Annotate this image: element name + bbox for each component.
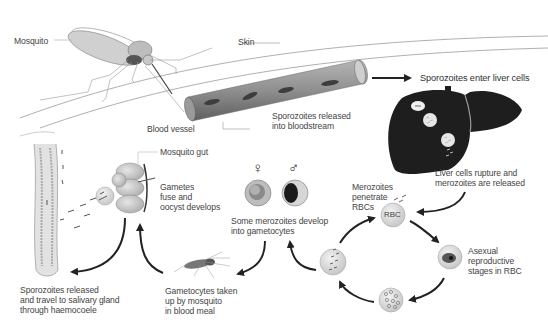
label-mosquito-gut: Mosquito gut: [160, 147, 208, 157]
salivary-gland-icon: [20, 132, 96, 276]
female-symbol-icon: ♀: [252, 160, 263, 176]
mosquito-gut-icon: [96, 152, 158, 213]
label-gametocytes-develop: Some merozoites develop into gametocytes: [231, 216, 328, 236]
label-skin: Skin: [238, 37, 254, 47]
label-merozoites-penetrate: Merozoites penetrate RBCs: [352, 182, 393, 212]
label-sporozoites-enter-liver: Sporozoites enter liver cells: [420, 73, 529, 84]
label-sporozoites-bloodstream: Sporozoites released into bloodstream: [272, 111, 351, 131]
male-symbol-icon: ♂: [288, 160, 299, 176]
label-gametes-fuse: Gametes fuse and oocyst develops: [160, 182, 220, 212]
arrow-gametocytes-to-mosquito: [238, 241, 265, 274]
label-sporozoites-salivary: Sporozoites released and travel to saliv…: [20, 285, 119, 315]
gametocytes: [245, 180, 308, 206]
label-mosquito: Mosquito: [14, 36, 48, 46]
label-asexual-stages: Asexual reproductive stages in RBC: [468, 246, 522, 276]
small-mosquito-icon: [174, 252, 230, 278]
label-rbc: RBC: [384, 210, 401, 220]
liver-icon: [388, 86, 522, 174]
arrow-mosquito-to-gut: [140, 225, 163, 273]
malaria-lifecycle-diagram: Mosquito Skin Blood vessel Sporozoites r…: [0, 0, 548, 326]
ruptured-rbc-cell: [320, 249, 346, 275]
diagram-artwork: [0, 0, 548, 326]
arrow-to-gametocytes: [290, 242, 316, 270]
arrow-liver-to-rbc: [418, 192, 465, 212]
oocyst: [96, 187, 114, 205]
label-blood-vessel: Blood vessel: [147, 124, 195, 134]
schizont-rbc-cell: [379, 288, 403, 312]
label-gametocytes-taken-up: Gametocytes taken up by mosquito in bloo…: [165, 286, 237, 316]
label-liver-rupture: Liver cells rupture and merozoites are r…: [435, 168, 525, 188]
